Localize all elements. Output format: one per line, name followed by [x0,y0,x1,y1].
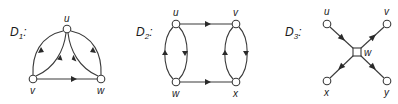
node-label-d3-u: u [324,6,330,17]
arrow-icon [243,51,249,56]
node-d1-u [63,25,71,33]
arrow-icon [222,50,228,55]
node-label-d1-w: w [97,85,105,96]
node-label-d1-u: u [64,13,70,24]
node-label-d2-x: x [232,88,239,99]
arrow-icon [205,79,211,85]
node-label-d3-w: w [364,47,372,58]
node-label-d2-w: w [172,88,180,99]
digraph-d3: D3: u v w x y [285,6,391,98]
arrow-icon [71,76,77,82]
diagram-label-d3: D3: [285,25,301,41]
node-label-d3-y: y [383,87,390,98]
node-label-d3-x: x [323,87,330,98]
node-d3-u [323,20,331,28]
node-label-d2-u: u [173,7,179,18]
node-d3-w [353,48,361,56]
node-label-d3-v: v [384,6,390,17]
node-d1-v [29,75,37,83]
diagram-label-d1: D1: [10,25,26,41]
arrow-icon [162,50,168,55]
node-d2-v [232,20,240,28]
node-d2-x [232,78,240,86]
diagram-label-d2: D2: [136,25,152,41]
node-d3-x [323,77,331,85]
digraph-d2: D2: u v w x [136,7,249,99]
arrow-icon [205,21,211,27]
digraph-d1: D1: u v w [10,13,105,96]
edge-d1-v-u [36,33,66,76]
node-d3-y [383,77,391,85]
edge-d1-u-w [68,33,98,76]
node-d2-u [172,20,180,28]
node-d1-w [97,75,105,83]
node-label-d1-v: v [30,85,36,96]
node-d2-w [172,78,180,86]
node-d3-v [383,20,391,28]
node-label-d2-v: v [233,7,239,18]
digraph-figure: D1: u v w D2: [0,0,398,104]
